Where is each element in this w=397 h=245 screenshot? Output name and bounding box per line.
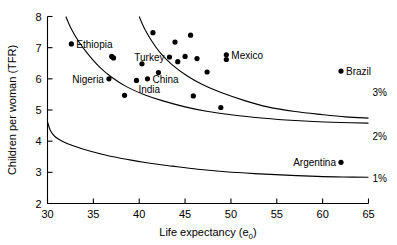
x-axis-ticks: 3035404550556065 bbox=[41, 199, 374, 220]
x-tick-label: 45 bbox=[179, 208, 191, 220]
isoline-2pct bbox=[139, 17, 368, 119]
x-axis-title: Life expectancy (e0) bbox=[159, 226, 256, 241]
y-tick-label: 3 bbox=[35, 166, 41, 178]
scatter-chart: 2345678 3035404550556065 3%2%1% Ethiopia… bbox=[0, 0, 397, 245]
x-tick-label: 60 bbox=[317, 208, 329, 220]
y-tick-label: 8 bbox=[35, 11, 41, 23]
data-point-india bbox=[134, 78, 139, 83]
data-point bbox=[194, 56, 199, 61]
y-tick-label: 4 bbox=[35, 135, 41, 147]
data-point bbox=[175, 59, 180, 64]
data-point bbox=[188, 33, 193, 38]
data-point-nigeria bbox=[106, 76, 111, 81]
point-label-india: India bbox=[138, 84, 160, 95]
x-axis-group: 3035404550556065 bbox=[41, 199, 374, 220]
data-point bbox=[111, 55, 116, 60]
isoline-percent-labels: 3%2%1% bbox=[373, 87, 388, 184]
isoline-1pct bbox=[48, 122, 369, 177]
data-point-ethiopia bbox=[69, 41, 74, 46]
data-point bbox=[122, 93, 127, 98]
data-points bbox=[69, 30, 344, 165]
y-tick-label: 7 bbox=[35, 42, 41, 54]
data-point bbox=[191, 93, 196, 98]
data-point bbox=[218, 105, 223, 110]
point-label-argentina: Argentina bbox=[293, 157, 336, 168]
point-label-turkey: Turkey bbox=[134, 52, 164, 63]
data-point-brazil bbox=[338, 68, 343, 73]
percent-label-3pct: 3% bbox=[373, 87, 388, 98]
point-label-china: China bbox=[152, 74, 179, 85]
y-tick-label: 5 bbox=[35, 104, 41, 116]
x-tick-label: 65 bbox=[362, 208, 374, 220]
data-point bbox=[172, 39, 177, 44]
data-point-labels: EthiopiaNigeriaIndiaChinaTurkeyMexicoBra… bbox=[72, 39, 371, 168]
y-axis-title: Children per woman (TFR) bbox=[6, 45, 18, 175]
x-tick-label: 40 bbox=[133, 208, 145, 220]
y-axis-ticks: 2345678 bbox=[35, 11, 52, 210]
data-point bbox=[204, 69, 209, 74]
data-point bbox=[224, 57, 229, 62]
data-point-china bbox=[145, 76, 150, 81]
x-tick-label: 30 bbox=[41, 208, 53, 220]
data-point-turkey bbox=[167, 54, 172, 59]
x-tick-label: 55 bbox=[271, 208, 283, 220]
point-label-brazil: Brazil bbox=[346, 66, 371, 77]
y-tick-label: 6 bbox=[35, 73, 41, 85]
x-tick-label: 35 bbox=[87, 208, 99, 220]
percent-label-2pct: 2% bbox=[373, 131, 388, 142]
chart-canvas: 2345678 3035404550556065 3%2%1% Ethiopia… bbox=[0, 0, 397, 245]
point-label-mexico: Mexico bbox=[231, 50, 263, 61]
point-label-nigeria: Nigeria bbox=[72, 74, 104, 85]
point-label-ethiopia: Ethiopia bbox=[76, 39, 113, 50]
y-axis-group: 2345678 bbox=[35, 11, 52, 210]
data-point bbox=[150, 30, 155, 35]
data-point-argentina bbox=[338, 160, 343, 165]
percent-label-1pct: 1% bbox=[373, 173, 388, 184]
data-point-mexico bbox=[224, 52, 229, 57]
data-point bbox=[182, 54, 187, 59]
x-tick-label: 50 bbox=[225, 208, 237, 220]
isoline-3pct bbox=[66, 17, 369, 124]
